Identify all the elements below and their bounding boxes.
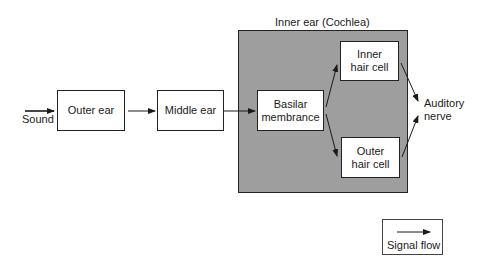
arrow-inner-hair-to-nerve <box>401 63 418 101</box>
arrow-right-icon <box>383 224 444 240</box>
arrow-outer-hair-to-nerve <box>402 116 418 157</box>
legend-box: Signal flow <box>382 219 443 255</box>
arrow-basilar-to-inner-hair <box>326 65 337 107</box>
legend-label: Signal flow <box>387 239 440 252</box>
arrow-basilar-to-outer-hair <box>326 114 337 156</box>
